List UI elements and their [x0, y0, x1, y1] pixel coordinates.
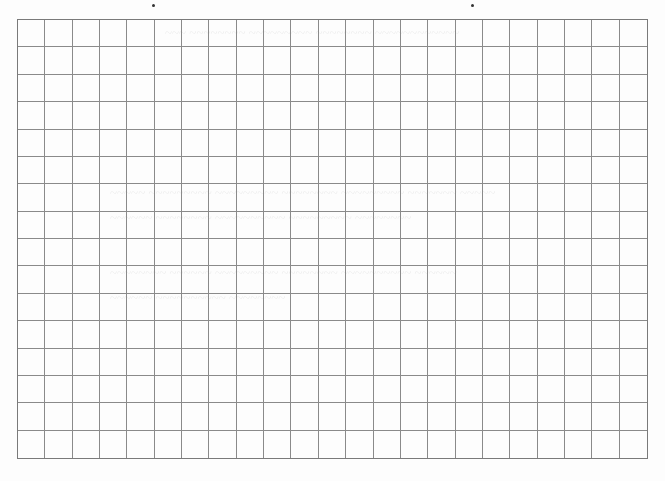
grid-cell [319, 75, 346, 102]
grid-cell [45, 157, 72, 184]
grid-cell [182, 266, 209, 293]
grid-cell [100, 184, 127, 211]
grid-cell [18, 157, 45, 184]
grid-cell [209, 431, 236, 458]
grid-cell [483, 239, 510, 266]
grid-cell [510, 130, 537, 157]
grid-cell [18, 266, 45, 293]
grid-cell [592, 47, 619, 74]
grid-cell [291, 294, 318, 321]
grid-cell [346, 75, 373, 102]
grid-cell [456, 212, 483, 239]
grid-cell [209, 349, 236, 376]
grid-cell [565, 212, 592, 239]
grid-cell [428, 75, 455, 102]
grid-cell [483, 20, 510, 47]
grid-cell [592, 184, 619, 211]
grid-cell [620, 294, 647, 321]
grid-cell [18, 294, 45, 321]
grid-cell [346, 47, 373, 74]
grid-cell [100, 20, 127, 47]
grid-cell [237, 130, 264, 157]
grid-cell [291, 184, 318, 211]
grid-cell [45, 321, 72, 348]
grid-cell [45, 212, 72, 239]
grid-cell [510, 20, 537, 47]
grid-cell [209, 403, 236, 430]
grid-cell [182, 47, 209, 74]
grid-cell [483, 157, 510, 184]
grid-cell [127, 321, 154, 348]
grid-cell [592, 239, 619, 266]
grid-cell [456, 266, 483, 293]
grid-cell [237, 75, 264, 102]
grid-cell [264, 157, 291, 184]
grid-cell [100, 47, 127, 74]
grid-cell [374, 184, 401, 211]
grid-cell [209, 266, 236, 293]
grid-cell [483, 349, 510, 376]
grid-cell [620, 184, 647, 211]
grid-cell [264, 321, 291, 348]
grid-cell [45, 349, 72, 376]
grid-cell [264, 431, 291, 458]
grid-cell [346, 157, 373, 184]
grid-cell [401, 239, 428, 266]
grid-cell [264, 212, 291, 239]
grid-cell [538, 184, 565, 211]
grid-cell [73, 75, 100, 102]
grid-cell [155, 130, 182, 157]
ink-mark [152, 4, 155, 7]
grid-cell [100, 157, 127, 184]
grid-cell [73, 157, 100, 184]
grid-cell [483, 102, 510, 129]
grid-cell [155, 47, 182, 74]
grid-cell [182, 403, 209, 430]
grid-cell [374, 266, 401, 293]
grid-cell [237, 321, 264, 348]
grid-cell [510, 157, 537, 184]
grid-cell [264, 294, 291, 321]
grid-cell [374, 321, 401, 348]
grid-cell [620, 376, 647, 403]
grid-cell [127, 75, 154, 102]
grid-cell [510, 321, 537, 348]
grid-cell [510, 102, 537, 129]
grid-cell [346, 266, 373, 293]
grid-cell [127, 403, 154, 430]
grid-cell [237, 20, 264, 47]
grid-cell [346, 20, 373, 47]
grid-cell [592, 376, 619, 403]
grid-cell [209, 47, 236, 74]
grid-cell [209, 212, 236, 239]
grid-cell [73, 20, 100, 47]
grid-cell [538, 321, 565, 348]
grid-cell [401, 349, 428, 376]
grid-cell [428, 157, 455, 184]
grid-cell [620, 321, 647, 348]
grid-cell [209, 321, 236, 348]
grid-cell [182, 349, 209, 376]
grid-cell [100, 403, 127, 430]
grid-cell [592, 431, 619, 458]
grid-cell [18, 20, 45, 47]
grid-cell [291, 403, 318, 430]
grid-cell [291, 102, 318, 129]
grid-cell [401, 294, 428, 321]
grid-cell [620, 20, 647, 47]
grid-cell [209, 376, 236, 403]
grid-cell [592, 130, 619, 157]
grid-cell [538, 130, 565, 157]
grid-cell [510, 75, 537, 102]
grid-cell [374, 157, 401, 184]
grid-cell [565, 75, 592, 102]
grid-cell [483, 266, 510, 293]
grid-cell [428, 20, 455, 47]
grid-cell [428, 130, 455, 157]
grid-cell [73, 431, 100, 458]
grid-cell [346, 212, 373, 239]
grid-cell [73, 102, 100, 129]
grid-cell [565, 294, 592, 321]
grid-cell [483, 321, 510, 348]
grid-cell [620, 157, 647, 184]
